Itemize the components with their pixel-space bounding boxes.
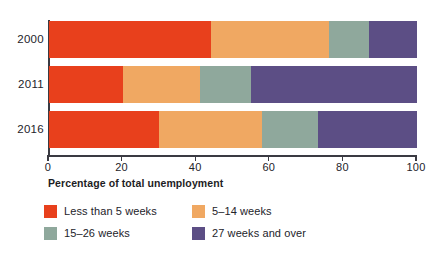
plot-area: 020406080100 2000 2011 2016 Percentage o…	[0, 0, 433, 175]
x-axis-tick-label: 80	[336, 161, 349, 173]
bar-segment	[211, 21, 329, 58]
legend-swatch-icon	[192, 205, 205, 218]
category-label-2011: 2011	[8, 78, 44, 90]
category-label-2016: 2016	[8, 123, 44, 135]
legend-item: Less than 5 weeks	[44, 205, 192, 218]
x-axis-tick-label: 40	[189, 161, 202, 173]
bar-segment	[251, 66, 417, 103]
legend-label: 27 weeks and over	[212, 227, 306, 239]
bar-row	[49, 21, 417, 58]
chart-legend: Less than 5 weeks5–14 weeks15–26 weeks27…	[44, 200, 374, 244]
bar-segment	[49, 21, 211, 58]
bar-segment	[49, 111, 159, 148]
x-axis-tick-label: 20	[115, 161, 128, 173]
legend-label: 5–14 weeks	[212, 205, 272, 217]
legend-swatch-icon	[44, 205, 57, 218]
legend-label: 15–26 weeks	[64, 227, 130, 239]
bar-segment	[159, 111, 262, 148]
x-axis-tick-label: 0	[45, 161, 51, 173]
bar-segment	[262, 111, 317, 148]
bar-segment	[49, 66, 123, 103]
x-axis-line	[48, 155, 416, 157]
legend-swatch-icon	[44, 227, 57, 240]
bar-segment	[329, 21, 369, 58]
x-axis-tick-label: 100	[407, 161, 426, 173]
legend-item: 5–14 weeks	[192, 205, 374, 218]
legend-swatch-icon	[192, 227, 205, 240]
bar-segment	[200, 66, 252, 103]
bar-segment	[318, 111, 417, 148]
bar-segment	[123, 66, 200, 103]
bar-row	[49, 66, 417, 103]
legend-label: Less than 5 weeks	[64, 205, 157, 217]
category-label-2000: 2000	[8, 33, 44, 45]
legend-item: 27 weeks and over	[192, 227, 374, 240]
stacked-bar-chart: 020406080100 2000 2011 2016 Percentage o…	[0, 0, 433, 256]
bar-row	[49, 111, 417, 148]
bar-segment	[369, 21, 417, 58]
x-axis-tick-label: 60	[262, 161, 275, 173]
x-axis-title: Percentage of total unemployment	[48, 177, 223, 189]
legend-item: 15–26 weeks	[44, 227, 192, 240]
